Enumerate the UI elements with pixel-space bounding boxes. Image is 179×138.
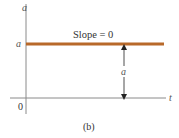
- arrow-magnitude-label: a: [121, 66, 126, 77]
- origin-label: 0: [18, 101, 23, 112]
- x-axis-label: t: [169, 92, 172, 103]
- subfigure-label: (b): [83, 121, 95, 133]
- acceleration-time-graph: a t a 0 Slope = 0 a (b): [0, 0, 179, 138]
- slope-annotation: Slope = 0: [73, 29, 113, 40]
- y-axis-label: a: [22, 2, 27, 13]
- level-tick-label: a: [16, 38, 21, 49]
